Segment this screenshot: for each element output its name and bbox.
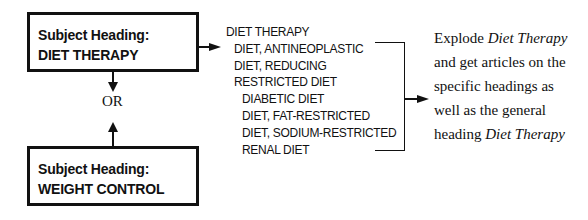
explanation-line: well as the general <box>434 98 584 122</box>
subject-heading-box-weight-control: Subject Heading: WEIGHT CONTROL <box>27 146 199 206</box>
subject-heading-value: DIET THERAPY <box>38 45 196 65</box>
tree-bracket <box>375 42 405 151</box>
bracket-arrow-icon <box>417 95 429 103</box>
tree-item: DIET, SODIUM-RESTRICTED <box>226 125 396 142</box>
explanation-line: heading <box>434 126 485 142</box>
subject-heading-box-diet-therapy: Subject Heading: DIET THERAPY <box>27 12 199 72</box>
tree-item: RENAL DIET <box>226 142 396 159</box>
right-arrow-icon <box>209 43 221 51</box>
or-label: OR <box>102 93 123 110</box>
tree-item: DIET, FAT-RESTRICTED <box>226 108 396 125</box>
subject-heading-label: Subject Heading: <box>38 159 196 179</box>
tree-item: DIET, ANTINEOPLASTIC <box>226 41 396 58</box>
emphasis-diet-therapy: Diet Therapy <box>485 126 565 142</box>
tree-item: RESTRICTED DIET <box>226 74 396 91</box>
heading-tree: DIET THERAPY DIET, ANTINEOPLASTIC DIET, … <box>226 24 396 158</box>
subject-heading-label: Subject Heading: <box>38 25 196 45</box>
up-arrow-line <box>112 131 114 146</box>
subject-heading-value: WEIGHT CONTROL <box>38 179 196 199</box>
tree-item: DIET THERAPY <box>226 24 396 41</box>
explanation-line: Explode <box>434 30 488 46</box>
emphasis-diet-therapy: Diet Therapy <box>488 30 568 46</box>
tree-item: DIET, REDUCING <box>226 58 396 75</box>
explanation-line: specific headings as <box>434 74 584 98</box>
tree-item: DIABETIC DIET <box>226 91 396 108</box>
explanation-text: Explode Diet Therapy and get articles on… <box>434 26 584 146</box>
explanation-line: and get articles on the <box>434 50 584 74</box>
down-arrow-icon <box>108 82 118 92</box>
